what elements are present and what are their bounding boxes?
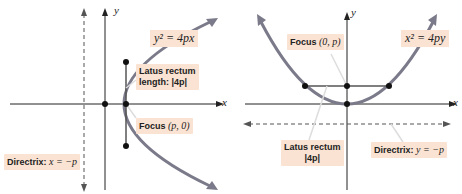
focus-coords: (0, p) [319,36,341,47]
directrix-leader [391,124,403,142]
focus-label: Focus (p, 0) [136,118,193,134]
directrix-label-text: Directrix: [7,157,47,167]
directrix-arrow-left-icon [243,121,251,127]
latus-bottom-point [123,143,129,149]
directrix-label: Directrix: x = −p [4,154,80,170]
directrix-arrow-up-icon [81,8,87,16]
directrix-eq: x = −p [49,156,77,167]
latus-line1: Latus rectum [284,142,341,153]
vertex-point [344,101,350,107]
latus-line1: Latus rectum [139,66,196,77]
latus-top-point [123,59,129,65]
x-axis-label: x [453,96,458,108]
equation-label: x² = 4py [401,30,449,47]
equation-label: y² = 4px [150,30,198,47]
directrix-arrow-right-icon [443,121,451,127]
directrix-label: Directrix: y = −p [371,142,447,158]
focus-leader [331,54,347,86]
focus-point [123,101,129,107]
focus-point [344,83,350,89]
vertical-parabola-diagram: y x x² = 4py Focus (0, p) Latus rectum |… [231,0,462,194]
focus-coords: (p, 0) [168,120,190,131]
focus-label-text: Focus [139,121,166,131]
y-axis-label: y [114,4,119,16]
latus-rectum-label: Latus rectum |4p| [281,140,344,166]
directrix-label-text: Directrix: [374,145,414,155]
latus-right-point [386,83,392,89]
vertex-point [102,101,108,107]
directrix-arrow-down-icon [81,184,87,192]
focus-label: Focus (0, p) [287,34,344,50]
focus-label-text: Focus [290,37,317,47]
latus-rectum-label: Latus rectum length: |4p| [136,64,199,90]
x-axis-label: x [222,96,227,108]
latus-line2: length: |4p| [139,77,196,88]
latus-line2: |4p| [284,153,341,164]
y-axis-label: y [351,6,356,18]
latus-left-point [302,83,308,89]
y-axis-arrow-icon [344,12,350,20]
directrix-eq: y = −p [416,144,444,155]
y-axis-arrow-icon [102,8,108,16]
horizontal-parabola-diagram: y x y² = 4px Latus rectum length: |4p| F… [0,0,231,194]
